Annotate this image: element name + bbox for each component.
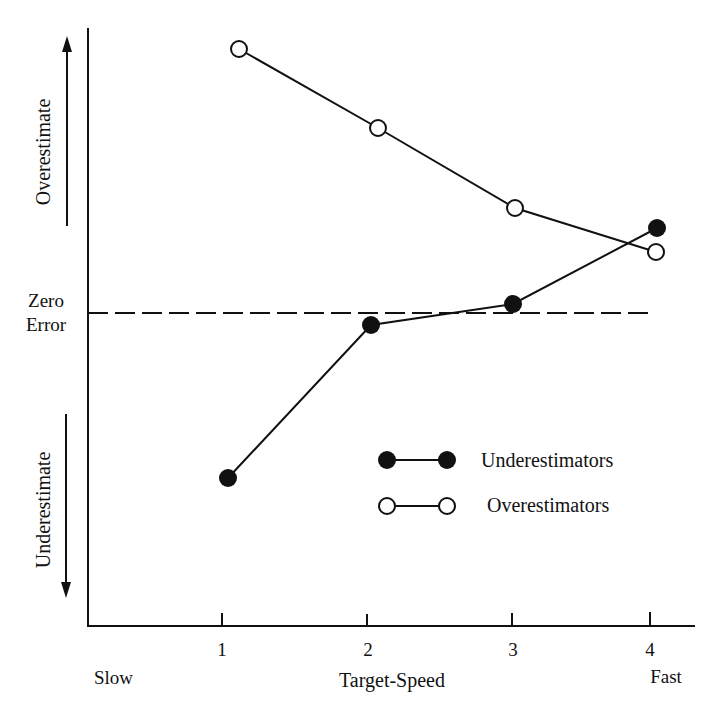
legend-underestimators-icon <box>378 451 456 469</box>
zero-label: Zero <box>28 290 64 311</box>
legend-overestimators-label: Overestimators <box>487 494 609 516</box>
x-ticks <box>222 612 650 626</box>
legend: Underestimators Overestimators <box>378 449 613 516</box>
overestimate-arrow-icon <box>62 36 72 226</box>
fast-label: Fast <box>650 666 682 687</box>
underestimate-arrow-icon <box>61 414 71 598</box>
series-underestimators <box>219 219 666 487</box>
chart: 1 2 3 4 Slow Target-Speed Fast Overestim… <box>0 0 718 716</box>
svg-text:2: 2 <box>363 639 373 660</box>
error-label: Error <box>26 314 67 335</box>
svg-text:4: 4 <box>645 639 655 660</box>
legend-overestimators-icon <box>379 498 455 514</box>
underestimate-label: Underestimate <box>32 452 54 569</box>
series-overestimators <box>231 41 664 260</box>
x-tick-labels: 1 2 3 4 <box>217 639 655 660</box>
overestimate-label: Overestimate <box>32 99 54 206</box>
slow-label: Slow <box>94 667 133 688</box>
svg-text:1: 1 <box>217 639 227 660</box>
x-axis-title: Target-Speed <box>339 669 445 692</box>
legend-underestimators-label: Underestimators <box>481 449 613 471</box>
svg-text:3: 3 <box>508 639 518 660</box>
